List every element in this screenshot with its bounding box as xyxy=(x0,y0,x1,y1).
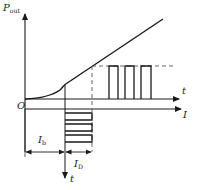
origin-label: O xyxy=(17,101,25,111)
output-pulse xyxy=(125,66,134,99)
x-axis-label-current: I xyxy=(183,110,187,120)
input-pulse-train xyxy=(65,113,92,142)
y-axis-label-power: Pout xyxy=(3,3,20,13)
y-axis-label-time-bottom: t xyxy=(70,174,74,184)
drive-current-label: ID xyxy=(74,159,83,169)
x-axis-label-time-top: t xyxy=(182,86,186,96)
input-pulse xyxy=(65,124,92,131)
figure-canvas xyxy=(0,0,198,190)
input-pulse xyxy=(65,135,92,142)
output-pulse xyxy=(109,66,118,99)
pi-curve-subthreshold xyxy=(25,85,65,100)
input-pulse xyxy=(65,113,92,120)
output-pulse-train xyxy=(109,66,151,99)
output-pulse xyxy=(141,66,151,99)
laser-diode-pi-characteristic-figure: Pout O t I Ib ID t xyxy=(0,0,198,190)
bias-current-label: Ib xyxy=(38,135,46,145)
pi-curve-lasing xyxy=(65,19,163,85)
